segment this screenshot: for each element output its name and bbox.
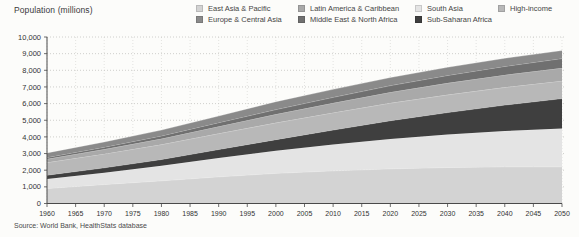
x-tick-label-1980: 1980 (154, 210, 170, 217)
x-tick-label-2025: 2025 (411, 210, 427, 217)
y-tick-label-0: 0 (37, 199, 41, 208)
y-tick-label-8000: 8,000 (22, 66, 41, 75)
y-tick-label-3000: 3,000 (22, 149, 41, 158)
y-tick-label-7000: 7,000 (22, 83, 41, 92)
x-tick-label-1985: 1985 (182, 210, 198, 217)
x-tick-label-1990: 1990 (211, 210, 227, 217)
x-tick-label-2030: 2030 (440, 210, 456, 217)
source-note: Source: World Bank, HealthStats database (14, 222, 147, 229)
x-tick-label-1995: 1995 (239, 210, 255, 217)
figure-page: Population (millions) East Asia & Pacifi… (0, 0, 579, 237)
population-stacked-area-chart: 01,0002,0003,0004,0005,0006,0007,0008,00… (0, 0, 579, 237)
x-tick-label-1970: 1970 (96, 210, 112, 217)
x-tick-label-2045: 2045 (526, 210, 542, 217)
x-tick-label-2050: 2050 (554, 210, 570, 217)
x-tick-label-2015: 2015 (354, 210, 370, 217)
x-tick-label-1960: 1960 (39, 210, 55, 217)
x-tick-label-2040: 2040 (497, 210, 513, 217)
x-tick-label-2000: 2000 (268, 210, 284, 217)
x-tick-label-2020: 2020 (383, 210, 399, 217)
y-tick-label-4000: 4,000 (22, 133, 41, 142)
y-tick-label-10000: 10,000 (18, 33, 41, 42)
y-tick-label-9000: 9,000 (22, 49, 41, 58)
x-tick-label-1965: 1965 (68, 210, 84, 217)
x-tick-label-1975: 1975 (125, 210, 141, 217)
y-tick-label-1000: 1,000 (22, 182, 41, 191)
y-tick-label-6000: 6,000 (22, 99, 41, 108)
x-tick-label-2035: 2035 (468, 210, 484, 217)
x-tick-label-2005: 2005 (297, 210, 313, 217)
y-tick-label-2000: 2,000 (22, 166, 41, 175)
x-tick-label-2010: 2010 (325, 210, 341, 217)
y-tick-label-5000: 5,000 (22, 116, 41, 125)
